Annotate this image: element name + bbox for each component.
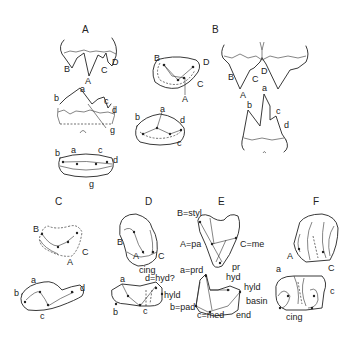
panel-a-lower-occlusal: b a c d g <box>55 145 118 189</box>
svg-text:D: D <box>203 57 210 67</box>
panel-f-upper: A C <box>287 214 338 273</box>
panel-c-lower: a b d c <box>14 275 85 321</box>
svg-text:d: d <box>112 105 117 115</box>
panel-d: D B A C cing a d=hyd? hyld b <box>112 196 181 317</box>
panel-a-lower-lingual: a b c d g <box>54 84 117 135</box>
svg-text:d=hyd?: d=hyd? <box>145 273 175 283</box>
svg-text:A: A <box>85 76 91 86</box>
panel-c-upper: B C A <box>33 224 89 267</box>
svg-text:A=pa: A=pa <box>180 239 201 249</box>
svg-text:a: a <box>80 84 85 94</box>
svg-text:C: C <box>252 74 259 84</box>
svg-text:c=med: c=med <box>197 310 224 320</box>
svg-text:A: A <box>133 251 139 261</box>
svg-text:a: a <box>276 264 281 274</box>
svg-text:b=pad: b=pad <box>170 302 195 312</box>
panel-e-lower: a=prd hyd hyld basin b=pad c=med end <box>170 265 268 320</box>
svg-text:C: C <box>82 247 89 257</box>
svg-text:b: b <box>135 112 140 122</box>
panel-b: B B C D A a b c d <box>212 24 308 153</box>
svg-text:c: c <box>40 311 45 321</box>
svg-text:b: b <box>14 288 19 298</box>
svg-text:D: D <box>261 66 268 76</box>
svg-text:C: C <box>197 79 204 89</box>
svg-text:pr: pr <box>232 262 240 272</box>
svg-text:C: C <box>158 251 165 261</box>
panel-e-title: E <box>218 196 225 207</box>
svg-text:hyld: hyld <box>164 290 181 300</box>
svg-text:C: C <box>101 65 108 75</box>
panel-c: C B C A a b d c <box>14 196 89 321</box>
panel-c-title: C <box>55 196 62 207</box>
svg-text:D: D <box>112 57 119 67</box>
svg-text:d: d <box>180 115 185 125</box>
svg-text:end: end <box>236 310 251 320</box>
svg-text:A: A <box>287 251 293 261</box>
svg-text:B: B <box>117 237 123 247</box>
svg-text:A: A <box>240 90 246 100</box>
svg-text:b: b <box>54 93 59 103</box>
panel-f: F A C a c cing <box>276 196 338 322</box>
panel-b-lower: a b c d <box>242 83 289 153</box>
svg-text:A: A <box>182 94 188 104</box>
tooth-cusp-diagram: A B A C D B D C A <box>0 0 358 342</box>
svg-text:d: d <box>284 120 289 130</box>
panel-a-upper-occlusal: B D C A <box>153 53 210 104</box>
svg-text:a: a <box>31 275 36 285</box>
svg-text:a: a <box>262 83 267 93</box>
svg-text:b: b <box>55 148 60 158</box>
svg-text:a: a <box>120 274 125 284</box>
svg-text:B: B <box>154 53 160 63</box>
panel-a: A B A C D B D C A <box>54 24 210 189</box>
svg-text:g: g <box>110 125 115 135</box>
svg-text:d: d <box>113 155 118 165</box>
svg-text:C: C <box>328 263 335 273</box>
svg-text:b: b <box>247 100 252 110</box>
svg-text:B: B <box>33 224 39 234</box>
svg-text:B: B <box>228 72 234 82</box>
svg-text:d: d <box>80 283 85 293</box>
svg-text:B: B <box>64 64 70 74</box>
panel-a-lower-occlusal-right: b a d c <box>135 104 185 148</box>
svg-text:a: a <box>160 104 165 114</box>
svg-text:A: A <box>67 257 73 267</box>
svg-text:hyld: hyld <box>244 282 261 292</box>
svg-text:c: c <box>104 96 109 106</box>
svg-text:g: g <box>89 179 94 189</box>
svg-text:hyd: hyd <box>226 272 241 282</box>
svg-text:b: b <box>113 307 118 317</box>
svg-text:cing: cing <box>286 312 303 322</box>
panel-f-title: F <box>313 196 319 207</box>
svg-text:a=prd: a=prd <box>180 265 203 275</box>
panel-d-title: D <box>145 196 152 207</box>
svg-text:c: c <box>330 286 335 296</box>
panel-e: E B=styl A=pa C=me pr a=prd hyd hyld <box>170 196 268 320</box>
svg-text:basin: basin <box>246 296 268 306</box>
panel-a-title: A <box>82 24 89 35</box>
panel-b-title: B <box>212 24 219 35</box>
panel-f-lower: a c cing <box>276 264 335 322</box>
panel-e-upper: B=styl A=pa C=me pr <box>177 208 264 272</box>
svg-text:c: c <box>143 306 148 316</box>
svg-text:C=me: C=me <box>240 239 264 249</box>
panel-a-upper-buccal: B A C D <box>60 38 119 86</box>
svg-text:c: c <box>276 106 281 116</box>
svg-text:c: c <box>177 138 182 148</box>
svg-text:c: c <box>98 145 103 155</box>
panel-d-upper: B A C cing <box>117 214 165 275</box>
svg-text:a: a <box>71 145 76 155</box>
svg-text:B=styl: B=styl <box>177 208 202 218</box>
